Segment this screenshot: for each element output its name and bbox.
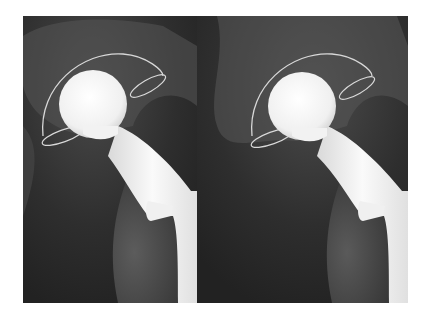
xray-panel-right bbox=[197, 16, 408, 303]
xray-panel-left bbox=[23, 16, 197, 303]
hip-prosthesis-xray-left bbox=[23, 16, 197, 303]
hip-prosthesis-xray-right bbox=[197, 16, 408, 303]
